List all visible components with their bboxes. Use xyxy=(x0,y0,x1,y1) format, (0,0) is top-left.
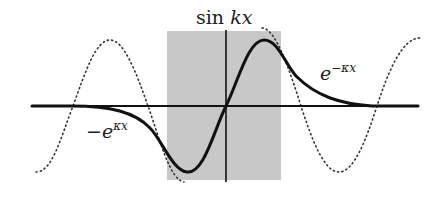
growing-exponential-label: −eκx xyxy=(86,120,128,141)
sin-arg-text: kx xyxy=(230,6,252,28)
wavefunction-diagram: sin kx e−κx −eκx xyxy=(0,0,445,198)
exp-exponent-left: κx xyxy=(113,119,128,133)
dotted-sine-wave xyxy=(36,40,184,182)
exp-base-left: e xyxy=(102,120,113,142)
sin-func-text: sin xyxy=(196,6,224,28)
exp-exponent-right: −κx xyxy=(331,61,356,75)
sin-kx-label: sin kx xyxy=(196,8,252,27)
decaying-exponential-label: e−κx xyxy=(320,62,356,83)
exp-base-right: e xyxy=(320,62,331,84)
exp-sign-left: − xyxy=(86,120,102,142)
